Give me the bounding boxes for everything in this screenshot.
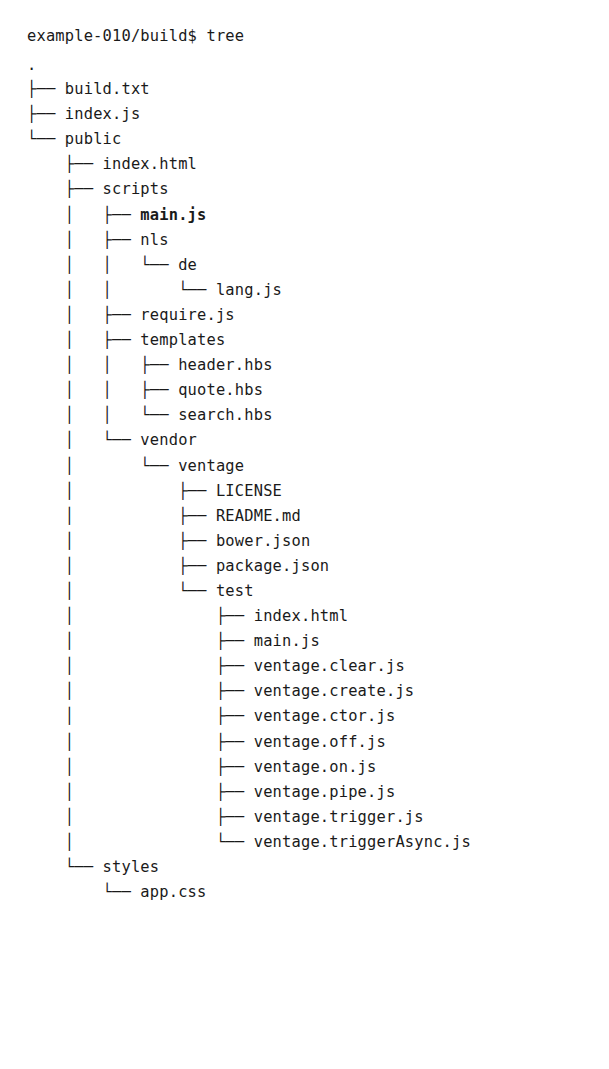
tree-row: │ ├── ventage.on.js bbox=[27, 755, 609, 780]
tree-entry-name[interactable]: ventage.on.js bbox=[254, 758, 377, 776]
tree-branch-connector: │ │ ├── bbox=[27, 356, 178, 374]
tree-entry-name[interactable]: ventage.create.js bbox=[254, 682, 415, 700]
tree-row: │ │ └── de bbox=[27, 253, 609, 278]
tree-row: │ └── vendor bbox=[27, 428, 609, 453]
tree-entry-name[interactable]: ventage.pipe.js bbox=[254, 783, 396, 801]
tree-entry-name[interactable]: header.hbs bbox=[178, 356, 272, 374]
tree-branch-connector: │ └── bbox=[27, 833, 254, 851]
tree-entry-name[interactable]: main.js bbox=[140, 206, 206, 224]
tree-entry-name[interactable]: public bbox=[65, 130, 122, 148]
tree-branch-connector: │ ├── bbox=[27, 557, 216, 575]
tree-row: │ ├── LICENSE bbox=[27, 479, 609, 504]
tree-branch-connector: ├── bbox=[27, 180, 103, 198]
tree-row: │ │ └── search.hbs bbox=[27, 403, 609, 428]
tree-entry-name[interactable]: require.js bbox=[140, 306, 234, 324]
tree-row: │ │ ├── quote.hbs bbox=[27, 378, 609, 403]
tree-entry-name[interactable]: main.js bbox=[254, 632, 320, 650]
tree-row: ├── build.txt bbox=[27, 77, 609, 102]
tree-row: ├── index.html bbox=[27, 152, 609, 177]
tree-entry-name[interactable]: ventage.trigger.js bbox=[254, 808, 424, 826]
tree-row: └── public bbox=[27, 127, 609, 152]
tree-row: │ ├── templates bbox=[27, 328, 609, 353]
tree-branch-connector: │ │ └── bbox=[27, 406, 178, 424]
tree-entry-name[interactable]: search.hbs bbox=[178, 406, 272, 424]
tree-row: │ ├── ventage.ctor.js bbox=[27, 704, 609, 729]
tree-row: │ ├── ventage.off.js bbox=[27, 730, 609, 755]
tree-entry-name[interactable]: quote.hbs bbox=[178, 381, 263, 399]
tree-entry-name[interactable]: vendor bbox=[140, 431, 197, 449]
tree-entry-name[interactable]: README.md bbox=[216, 507, 301, 525]
tree-branch-connector: │ └── bbox=[27, 457, 178, 475]
tree-entry-name[interactable]: lang.js bbox=[216, 281, 282, 299]
tree-row: └── app.css bbox=[27, 880, 609, 905]
shell-prompt-line: example-010/build$ tree bbox=[27, 24, 609, 49]
tree-branch-connector: └── bbox=[27, 858, 103, 876]
tree-entry-name[interactable]: LICENSE bbox=[216, 482, 282, 500]
tree-branch-connector: │ ├── bbox=[27, 808, 254, 826]
tree-entry-name[interactable]: test bbox=[216, 582, 254, 600]
tree-entry-name[interactable]: bower.json bbox=[216, 532, 310, 550]
tree-branch-connector: │ ├── bbox=[27, 507, 216, 525]
tree-entry-name[interactable]: ventage bbox=[178, 457, 244, 475]
tree-branch-connector: ├── bbox=[27, 155, 103, 173]
tree-entry-name[interactable]: nls bbox=[140, 231, 168, 249]
tree-row: │ │ ├── header.hbs bbox=[27, 353, 609, 378]
tree-branch-connector: │ ├── bbox=[27, 758, 254, 776]
tree-entry-name[interactable]: ventage.ctor.js bbox=[254, 707, 396, 725]
tree-entry-name[interactable]: index.html bbox=[254, 607, 348, 625]
tree-branch-connector: │ ├── bbox=[27, 482, 216, 500]
tree-branch-connector: │ ├── bbox=[27, 231, 140, 249]
tree-entry-name[interactable]: package.json bbox=[216, 557, 329, 575]
tree-branch-connector: ├── bbox=[27, 80, 65, 98]
tree-branch-connector: │ │ └── bbox=[27, 281, 216, 299]
tree-entry-name[interactable]: ventage.clear.js bbox=[254, 657, 405, 675]
tree-row: │ ├── main.js bbox=[27, 203, 609, 228]
tree-entry-name[interactable]: app.css bbox=[140, 883, 206, 901]
tree-row: │ ├── main.js bbox=[27, 629, 609, 654]
tree-branch-connector: │ ├── bbox=[27, 632, 254, 650]
tree-entry-name[interactable]: ventage.triggerAsync.js bbox=[254, 833, 471, 851]
tree-row: ├── scripts bbox=[27, 177, 609, 202]
tree-row: │ │ └── lang.js bbox=[27, 278, 609, 303]
tree-row: │ ├── ventage.create.js bbox=[27, 679, 609, 704]
tree-branch-connector: │ ├── bbox=[27, 607, 254, 625]
tree-row: │ └── ventage bbox=[27, 454, 609, 479]
tree-listing: ├── build.txt├── index.js└── public ├── … bbox=[27, 77, 609, 905]
tree-row: │ ├── ventage.pipe.js bbox=[27, 780, 609, 805]
tree-entry-name[interactable]: index.js bbox=[65, 105, 141, 123]
tree-root-node: . bbox=[27, 54, 609, 77]
tree-entry-name[interactable]: ventage.off.js bbox=[254, 733, 386, 751]
tree-row: │ ├── bower.json bbox=[27, 529, 609, 554]
tree-branch-connector: └── bbox=[27, 130, 65, 148]
tree-branch-connector: ├── bbox=[27, 105, 65, 123]
tree-row: │ └── ventage.triggerAsync.js bbox=[27, 830, 609, 855]
tree-branch-connector: └── bbox=[27, 883, 140, 901]
tree-entry-name[interactable]: build.txt bbox=[65, 80, 150, 98]
tree-branch-connector: │ ├── bbox=[27, 206, 140, 224]
tree-branch-connector: │ ├── bbox=[27, 707, 254, 725]
tree-entry-name[interactable]: index.html bbox=[103, 155, 197, 173]
tree-row: │ ├── require.js bbox=[27, 303, 609, 328]
tree-branch-connector: │ ├── bbox=[27, 532, 216, 550]
tree-row: ├── index.js bbox=[27, 102, 609, 127]
tree-branch-connector: │ └── bbox=[27, 582, 216, 600]
tree-row: │ └── test bbox=[27, 579, 609, 604]
tree-branch-connector: │ ├── bbox=[27, 306, 140, 324]
tree-row: │ ├── ventage.trigger.js bbox=[27, 805, 609, 830]
terminal-output: example-010/build$ tree . ├── build.txt├… bbox=[27, 24, 609, 905]
tree-entry-name[interactable]: scripts bbox=[103, 180, 169, 198]
tree-branch-connector: │ │ └── bbox=[27, 256, 178, 274]
tree-entry-name[interactable]: styles bbox=[103, 858, 160, 876]
tree-row: │ ├── package.json bbox=[27, 554, 609, 579]
tree-entry-name[interactable]: de bbox=[178, 256, 197, 274]
tree-entry-name[interactable]: templates bbox=[140, 331, 225, 349]
tree-branch-connector: │ ├── bbox=[27, 682, 254, 700]
tree-branch-connector: │ ├── bbox=[27, 331, 140, 349]
tree-branch-connector: │ ├── bbox=[27, 783, 254, 801]
tree-row: └── styles bbox=[27, 855, 609, 880]
tree-row: │ ├── nls bbox=[27, 228, 609, 253]
tree-branch-connector: │ ├── bbox=[27, 733, 254, 751]
tree-branch-connector: │ ├── bbox=[27, 657, 254, 675]
tree-branch-connector: │ └── bbox=[27, 431, 140, 449]
tree-row: │ ├── ventage.clear.js bbox=[27, 654, 609, 679]
